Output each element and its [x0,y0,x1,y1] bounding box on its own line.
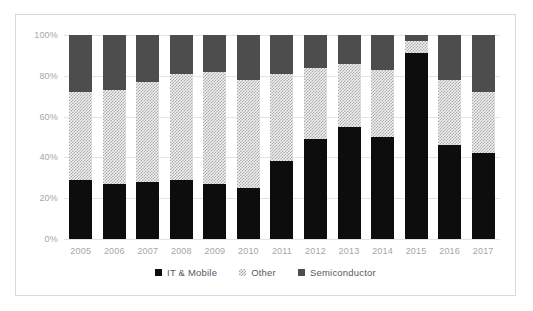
bar-segment-it-mobile[interactable] [136,182,159,239]
bar-segment-it-mobile[interactable] [472,153,495,239]
chart-legend: IT & MobileOtherSemiconductor [16,267,515,278]
bar-segment-other[interactable] [405,41,428,53]
square-black-icon [155,269,162,276]
bar-segment-other[interactable] [237,80,260,188]
y-axis-tick-label: 20% [39,193,58,203]
bar-segment-other[interactable] [304,68,327,139]
bar-segment-semiconductor[interactable] [438,35,461,80]
bar-group-2010[interactable] [237,35,260,239]
bar-segment-other[interactable] [472,92,495,153]
bar-segment-it-mobile[interactable] [103,184,126,239]
square-gray-icon [298,269,305,276]
legend-item-semiconductor[interactable]: Semiconductor [298,267,376,278]
bar-segment-semiconductor[interactable] [237,35,260,80]
bar-segment-semiconductor[interactable] [472,35,495,92]
bar-segment-other[interactable] [103,90,126,184]
bar-segment-semiconductor[interactable] [270,35,293,74]
bar-group-2012[interactable] [304,35,327,239]
bar-segment-semiconductor[interactable] [170,35,193,74]
bar-segment-semiconductor[interactable] [136,35,159,82]
x-axis-tick-label: 2013 [338,246,361,256]
bar-segment-it-mobile[interactable] [270,161,293,239]
bar-group-2016[interactable] [438,35,461,239]
x-axis-tick-label: 2017 [472,246,495,256]
bar-segment-semiconductor[interactable] [203,35,226,72]
bar-series-container [64,35,500,239]
x-axis-tick-label: 2009 [203,246,226,256]
legend-label: IT & Mobile [167,267,217,278]
bar-group-2013[interactable] [338,35,361,239]
bar-segment-other[interactable] [203,72,226,184]
bar-segment-other[interactable] [270,74,293,162]
bar-group-2007[interactable] [136,35,159,239]
bar-segment-it-mobile[interactable] [170,180,193,239]
x-axis-tick-label: 2016 [438,246,461,256]
bar-segment-semiconductor[interactable] [371,35,394,70]
bar-segment-it-mobile[interactable] [237,188,260,239]
x-axis-tick-labels: 2005200620072008200920102011201220132014… [64,243,500,259]
bar-segment-semiconductor[interactable] [338,35,361,64]
y-axis-tick-label: 60% [39,112,58,122]
x-axis-tick-label: 2008 [170,246,193,256]
bar-segment-other[interactable] [338,64,361,127]
bar-segment-other[interactable] [170,74,193,180]
bar-group-2009[interactable] [203,35,226,239]
bar-segment-semiconductor[interactable] [304,35,327,68]
bar-group-2015[interactable] [405,35,428,239]
plot-area: 0%20%40%60%80%100% [64,35,500,239]
bar-segment-it-mobile[interactable] [338,127,361,239]
x-axis-tick-label: 2010 [237,246,260,256]
x-axis-tick-label: 2015 [405,246,428,256]
bar-segment-other[interactable] [438,80,461,145]
x-axis-tick-label: 2012 [304,246,327,256]
bar-group-2008[interactable] [170,35,193,239]
y-axis-tick-label: 40% [39,152,58,162]
y-axis-tick-label: 100% [34,30,58,40]
bar-segment-semiconductor[interactable] [69,35,92,92]
bar-segment-it-mobile[interactable] [69,180,92,239]
bar-group-2005[interactable] [69,35,92,239]
bar-segment-other[interactable] [371,70,394,137]
x-axis-tick-label: 2014 [371,246,394,256]
gridline: 0% [64,239,500,240]
bar-group-2017[interactable] [472,35,495,239]
x-axis-tick-label: 2006 [103,246,126,256]
square-hatch-icon [239,269,246,276]
legend-label: Other [251,267,276,278]
x-axis-tick-label: 2005 [69,246,92,256]
bar-segment-it-mobile[interactable] [304,139,327,239]
legend-label: Semiconductor [310,267,376,278]
legend-item-other[interactable]: Other [239,267,276,278]
bar-segment-semiconductor[interactable] [103,35,126,90]
x-axis-tick-label: 2007 [136,246,159,256]
y-axis-tick-label: 80% [39,71,58,81]
bar-segment-other[interactable] [69,92,92,180]
bar-group-2011[interactable] [270,35,293,239]
bar-group-2006[interactable] [103,35,126,239]
bar-segment-it-mobile[interactable] [438,145,461,239]
chart-frame: 0%20%40%60%80%100% 200520062007200820092… [15,14,516,296]
y-axis-tick-label: 0% [45,234,58,244]
bar-segment-it-mobile[interactable] [371,137,394,239]
bar-segment-it-mobile[interactable] [405,53,428,239]
bar-segment-it-mobile[interactable] [203,184,226,239]
bar-segment-other[interactable] [136,82,159,182]
legend-item-it-mobile[interactable]: IT & Mobile [155,267,217,278]
x-axis-tick-label: 2011 [270,246,293,256]
bar-group-2014[interactable] [371,35,394,239]
